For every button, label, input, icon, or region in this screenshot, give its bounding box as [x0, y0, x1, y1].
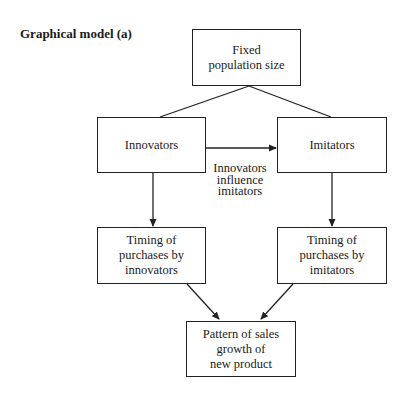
node-timing-imitators: Timing of purchases by imitators [277, 227, 387, 284]
node-timing-innovators: Timing of purchases by innovators [97, 227, 206, 284]
node-innovators: Innovators [97, 117, 206, 173]
node-label: Imitators [309, 138, 354, 153]
node-fixed-population-size: Fixed population size [192, 29, 301, 86]
edge-timing-innovators-pattern [187, 284, 219, 319]
node-label: Timing of purchases by innovators [119, 233, 184, 278]
edge-label-innovators-influence-imitators: Innovators influence imitators [200, 163, 280, 198]
node-imitators: Imitators [277, 117, 387, 173]
node-label: Timing of purchases by imitators [300, 233, 365, 278]
edge-population-innovators [160, 86, 249, 117]
node-label: Innovators [125, 138, 178, 153]
edge-population-imitators [249, 86, 331, 117]
node-label: Fixed population size [208, 43, 284, 73]
edge-timing-imitators-pattern [261, 284, 293, 319]
node-sales-growth-pattern: Pattern of sales growth of new product [186, 321, 296, 377]
node-label: Pattern of sales growth of new product [203, 327, 279, 372]
